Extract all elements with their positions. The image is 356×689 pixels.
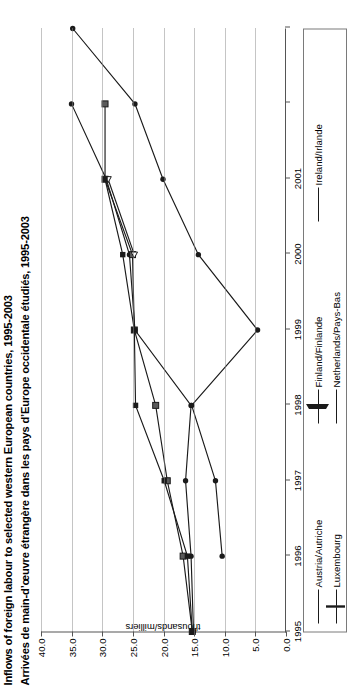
y-axis-tick-label: 5.0 xyxy=(250,638,261,651)
legend-marker-filled-circle-icon xyxy=(311,187,325,221)
legend-label: Netherlands/Pays-Bas xyxy=(331,292,342,387)
y-axis-tick xyxy=(102,631,103,636)
x-axis-tick-label: 1996 xyxy=(292,545,303,566)
y-axis-tick-label: 35.0 xyxy=(66,638,77,657)
y-axis-tick xyxy=(194,631,195,636)
y-gridline xyxy=(164,28,165,631)
x-axis-tick xyxy=(285,177,290,178)
legend-marker-square-icon xyxy=(329,589,343,623)
x-axis-tick xyxy=(285,630,290,631)
y-gridline xyxy=(194,28,195,631)
chart-title-english: Inflows of foreign labour to selected we… xyxy=(2,295,14,685)
series-line xyxy=(105,179,192,631)
plot-inner xyxy=(41,28,285,631)
y-axis-tick xyxy=(133,631,134,636)
x-axis-tick-label: 2000 xyxy=(292,243,303,264)
y-axis-tick-label: 20.0 xyxy=(158,638,169,657)
x-axis-tick xyxy=(285,479,290,480)
data-point-marker xyxy=(153,402,159,408)
y-gridline xyxy=(72,28,73,631)
legend-label: Luxembourg xyxy=(331,534,342,587)
y-gridline xyxy=(225,28,226,631)
legend-line xyxy=(318,589,319,623)
data-point-marker xyxy=(120,251,125,256)
series-netherlands-pays-bas xyxy=(102,176,195,634)
y-axis-tick xyxy=(41,631,42,636)
series-line xyxy=(73,28,258,556)
plot-area: thousands/milliers 0.05.010.015.020.025.… xyxy=(41,28,286,632)
chart-figure: Inflows of foreign labour to selected we… xyxy=(0,0,356,689)
legend-marker-filled-circle-icon xyxy=(311,589,325,623)
legend-marker-filled-square-icon xyxy=(329,389,343,423)
y-gridline xyxy=(41,28,42,631)
legend-label: Ireland/Irlande xyxy=(313,124,324,185)
y-axis-tick xyxy=(255,631,256,636)
data-point-marker xyxy=(213,478,218,483)
legend-line xyxy=(336,389,337,423)
data-point-marker xyxy=(185,553,190,558)
series-line xyxy=(105,103,192,631)
x-axis-tick-label: 1998 xyxy=(292,394,303,415)
series-line xyxy=(108,179,134,254)
y-axis-tick-label: 40.0 xyxy=(36,638,47,657)
legend-marker xyxy=(309,404,327,409)
y-axis-tick-label: 25.0 xyxy=(127,638,138,657)
data-point-marker xyxy=(196,251,201,256)
y-axis-tick xyxy=(164,631,165,636)
legend-label: Finland/Finlande xyxy=(313,316,324,387)
y-axis-tick xyxy=(72,631,73,636)
y-axis-tick-label: 0.0 xyxy=(281,638,292,651)
legend-item-netherlands-pays-bas[interactable]: Netherlands/Pays-Bas xyxy=(329,292,343,423)
y-gridline xyxy=(102,28,103,631)
x-axis-tick xyxy=(285,253,290,254)
y-axis-tick-label: 30.0 xyxy=(97,638,108,657)
y-gridline xyxy=(133,28,134,631)
x-axis-tick xyxy=(285,102,290,103)
x-axis-tick-label: 2001 xyxy=(292,167,303,188)
y-gridline xyxy=(255,28,256,631)
y-axis-tick-label: 10.0 xyxy=(219,638,230,657)
series-luxembourg xyxy=(102,100,195,634)
legend-marker-shape xyxy=(326,605,345,607)
x-axis-tick xyxy=(285,404,290,405)
legend-label: Austria/Autriche xyxy=(313,519,324,587)
legend-line xyxy=(318,187,319,221)
legend-item-austria-autriche[interactable]: Austria/Autriche xyxy=(311,519,325,623)
legend-row: Austria/AutricheFinland/FinlandeIreland/… xyxy=(309,29,327,631)
data-point-marker xyxy=(183,478,188,483)
x-axis-tick xyxy=(285,26,290,27)
legend-item-finland-finlande[interactable]: Finland/Finlande xyxy=(311,316,325,423)
chart-legend: Austria/AutricheFinland/FinlandeIreland/… xyxy=(303,28,347,632)
y-axis-tick xyxy=(286,631,287,636)
legend-item-ireland-irlande[interactable]: Ireland/Irlande xyxy=(311,124,325,221)
chart-title-french: Arrivées de main-d’œuvre étrangère dans … xyxy=(19,216,31,685)
legend-item-luxembourg[interactable]: Luxembourg xyxy=(329,534,343,623)
x-axis-tick xyxy=(285,328,290,329)
x-axis-tick-label: 1999 xyxy=(292,318,303,339)
legend-marker-shape xyxy=(306,404,329,409)
legend-marker xyxy=(327,605,345,607)
x-axis-tick xyxy=(285,555,290,556)
legend-row: LuxembourgNetherlands/Pays-Bas xyxy=(327,29,345,631)
y-axis-tick xyxy=(225,631,226,636)
legend-marker-open-triangle-icon xyxy=(311,389,325,423)
x-axis-tick-label: 1997 xyxy=(292,469,303,490)
y-axis-tick-label: 15.0 xyxy=(189,638,200,657)
x-axis-tick-label: 1995 xyxy=(292,620,303,641)
